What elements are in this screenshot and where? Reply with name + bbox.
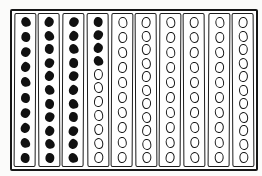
open-bean-icon <box>117 32 127 44</box>
open-bean-icon <box>238 98 248 110</box>
open-bean-icon <box>116 121 127 133</box>
filled-bean-icon <box>68 84 80 96</box>
bean-frame <box>10 9 258 171</box>
open-bean-icon <box>238 138 248 150</box>
filled-bean-icon <box>19 16 31 29</box>
open-bean-icon <box>238 84 248 96</box>
filled-bean-icon <box>67 138 79 150</box>
open-bean-icon <box>165 122 175 134</box>
bean-column-1 <box>14 13 37 167</box>
open-bean-icon <box>141 124 152 136</box>
open-bean-icon <box>190 137 200 149</box>
open-bean-icon <box>164 136 176 149</box>
open-bean-icon <box>165 46 175 58</box>
filled-bean-icon <box>91 54 103 67</box>
open-bean-icon <box>238 44 248 56</box>
open-bean-icon <box>140 56 152 69</box>
open-bean-icon <box>93 110 103 122</box>
filled-bean-icon <box>91 28 104 41</box>
filled-bean-icon <box>43 70 55 82</box>
open-bean-icon <box>141 70 152 82</box>
open-bean-icon <box>165 106 175 118</box>
open-bean-icon <box>92 137 104 150</box>
open-bean-icon <box>117 92 127 104</box>
open-bean-icon <box>214 16 224 28</box>
open-bean-icon <box>189 61 199 73</box>
filled-bean-icon <box>68 29 80 41</box>
open-bean-icon <box>189 106 200 118</box>
open-bean-icon <box>93 124 103 136</box>
open-bean-icon <box>141 30 151 42</box>
filled-bean-icon <box>92 42 104 54</box>
open-bean-icon <box>237 30 247 42</box>
counting-illustration <box>0 0 262 176</box>
open-bean-icon <box>213 61 224 73</box>
open-bean-icon <box>189 121 199 133</box>
open-bean-icon <box>213 136 223 148</box>
open-bean-icon <box>92 81 104 94</box>
filled-bean-icon <box>43 16 55 28</box>
open-bean-icon <box>214 32 224 44</box>
bean-column-3 <box>62 13 85 167</box>
bean-column-7 <box>159 13 182 167</box>
open-bean-icon <box>165 76 177 89</box>
bean-column-9 <box>207 13 230 167</box>
open-bean-icon <box>116 136 126 148</box>
open-bean-icon <box>213 46 225 59</box>
filled-bean-icon <box>67 152 79 165</box>
filled-bean-icon <box>67 15 80 28</box>
open-bean-icon <box>165 31 176 43</box>
filled-bean-icon <box>67 124 80 137</box>
open-bean-icon <box>141 84 151 96</box>
filled-bean-icon <box>42 56 55 69</box>
open-bean-icon <box>117 152 127 164</box>
open-bean-icon <box>237 56 249 69</box>
filled-bean-icon <box>67 70 80 83</box>
filled-bean-icon <box>44 125 56 137</box>
open-bean-icon <box>165 16 177 29</box>
filled-bean-icon <box>43 29 55 42</box>
filled-bean-icon <box>20 153 30 164</box>
filled-bean-icon <box>19 136 31 149</box>
filled-bean-icon <box>18 106 31 119</box>
open-bean-icon <box>140 16 151 28</box>
open-bean-icon <box>189 91 201 104</box>
open-bean-icon <box>188 31 200 44</box>
filled-bean-icon <box>67 97 79 110</box>
open-bean-icon <box>214 76 224 88</box>
open-bean-icon <box>93 151 104 163</box>
open-bean-icon <box>238 124 249 136</box>
open-bean-icon <box>190 77 200 89</box>
filled-bean-icon <box>19 45 32 58</box>
bean-column-8 <box>183 13 206 167</box>
filled-bean-icon <box>45 152 55 163</box>
open-bean-icon <box>116 106 128 119</box>
open-bean-icon <box>165 151 176 163</box>
open-bean-icon <box>141 98 151 110</box>
open-bean-icon <box>117 61 128 73</box>
filled-bean-icon <box>92 17 102 28</box>
filled-bean-icon <box>44 44 54 55</box>
bean-column-2 <box>38 13 61 167</box>
open-bean-icon <box>189 17 199 29</box>
filled-bean-icon <box>69 57 79 68</box>
open-bean-icon <box>213 152 223 164</box>
filled-bean-icon <box>43 84 55 97</box>
bean-column-5 <box>110 13 133 167</box>
open-bean-icon <box>117 76 127 88</box>
filled-bean-icon <box>19 61 31 73</box>
filled-bean-icon <box>19 76 31 89</box>
open-bean-icon <box>92 96 103 108</box>
filled-bean-icon <box>43 138 55 151</box>
open-bean-icon <box>213 106 225 119</box>
open-bean-icon <box>237 110 249 123</box>
filled-bean-icon <box>68 43 80 56</box>
filled-bean-icon <box>19 122 31 134</box>
filled-bean-icon <box>68 112 78 123</box>
open-bean-icon <box>93 68 103 80</box>
open-bean-icon <box>140 110 152 123</box>
bean-column-4 <box>86 13 109 167</box>
open-bean-icon <box>214 92 224 104</box>
open-bean-icon <box>165 91 176 103</box>
open-bean-icon <box>141 138 151 150</box>
